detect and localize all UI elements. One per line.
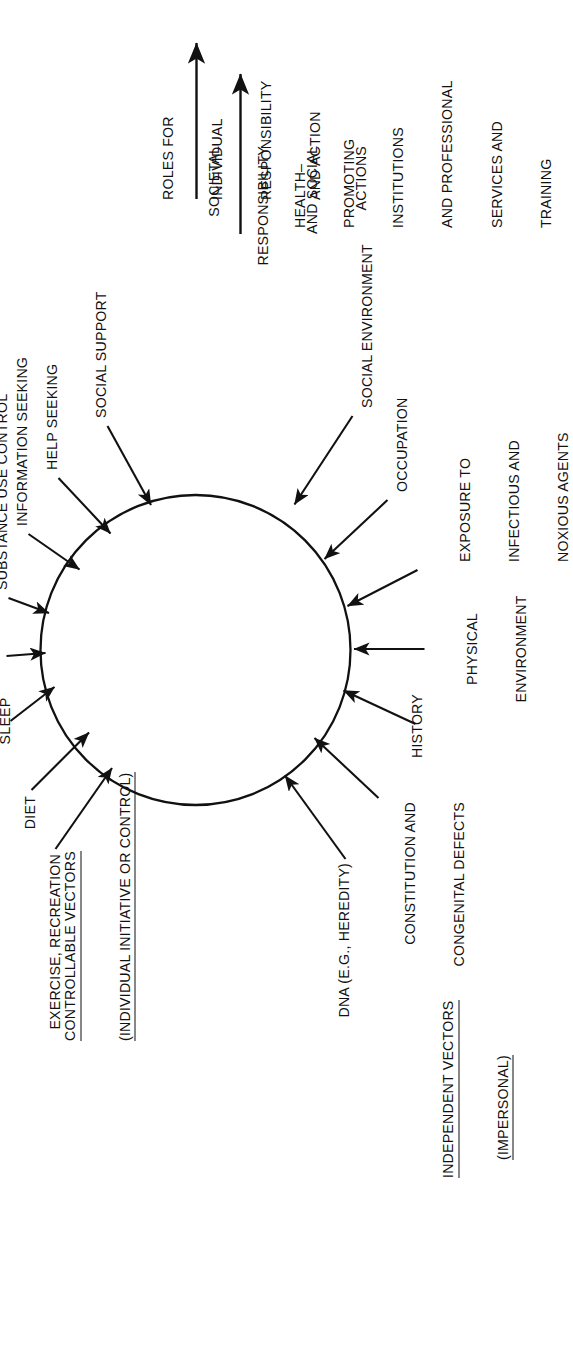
label-history: HISTORY <box>408 671 425 781</box>
note-societal-line1: SOCIETAL <box>205 146 221 326</box>
label-exposure-line1: EXPOSURE TO <box>456 342 472 562</box>
vector-arrow-history <box>343 691 415 725</box>
note-health-line1: HEALTH– <box>291 0 307 228</box>
vector-arrow-social-support <box>107 426 151 505</box>
center-circle <box>40 495 350 805</box>
label-substance-use-control: SUBSTANCE USE CONTROL <box>0 290 10 590</box>
label-diet: DIET <box>21 796 38 992</box>
label-exposure-line3: NOXIOUS AGENTS <box>554 342 570 562</box>
vector-arrow-substance-use-control <box>8 598 49 613</box>
vector-arrow-exposure-infectious-noxious-agents <box>347 570 417 606</box>
vector-arrow-occupation <box>324 500 387 559</box>
label-constitution-line2: CONGENITAL DEFECTS <box>450 802 466 1094</box>
note-health-line6: TRAINING <box>537 0 553 228</box>
vector-arrow-constitution-congenital-defects <box>314 738 378 798</box>
label-physical-environment-line2: ENVIRONMENT <box>512 585 528 713</box>
note-health-line2: PROMOTING <box>340 0 356 228</box>
label-information-seeking: INFORMATION SEEKING <box>13 226 30 526</box>
note-health-line3: INSTITUTIONS <box>389 0 405 228</box>
vector-arrow-dna <box>285 776 346 860</box>
vector-arrow-information-seeking <box>28 534 79 570</box>
label-exposure-infectious-noxious: EXPOSURE TO INFECTIOUS AND NOXIOUS AGENT… <box>423 342 573 562</box>
label-constitution-line1: CONSTITUTION AND <box>401 802 417 1094</box>
label-constitution-congenital-defects: CONSTITUTION AND CONGENITAL DEFECTS <box>368 802 499 1094</box>
vector-arrow-sleep <box>10 687 54 721</box>
label-social-support: SOCIAL SUPPORT <box>92 178 109 418</box>
label-dna-heredity: DNA (E.G., HEREDITY) <box>335 863 352 1141</box>
heading-controllable-line1: CONTROLLABLE VECTORS <box>61 851 81 1041</box>
label-physical-environment: PHYSICAL ENVIRONMENT <box>430 585 561 713</box>
label-exposure-line2: INFECTIOUS AND <box>505 342 521 562</box>
label-exercise-recreation: EXERCISE, RECREATION <box>46 854 63 1132</box>
vector-arrow-stress-reduction <box>6 653 45 656</box>
vector-arrow-help-seeking <box>58 478 110 534</box>
note-health-line5: SERVICES AND <box>488 0 504 228</box>
label-physical-environment-line1: PHYSICAL <box>463 585 479 713</box>
vector-arrow-social-environment <box>294 416 352 505</box>
label-help-seeking: HELP SEEKING <box>43 230 60 470</box>
note-health-line4: AND PROFESSIONAL <box>438 0 454 228</box>
heading-controllable-line2: (INDIVIDUAL INITIATIVE OR CONTROL) <box>116 773 136 1042</box>
label-sleep: SLEEP <box>0 676 13 766</box>
note-health-promoting-institutions: HEALTH– PROMOTING INSTITUTIONS AND PROFE… <box>258 0 573 228</box>
